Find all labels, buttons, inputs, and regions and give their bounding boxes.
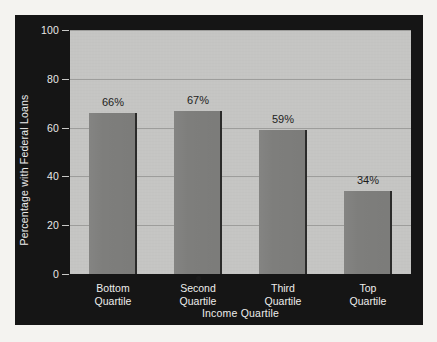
gridline [70, 79, 411, 80]
y-axis-tick-mark [62, 176, 69, 177]
y-axis-tick-label: 60 [47, 123, 59, 133]
y-axis-tick-label: 100 [41, 25, 59, 35]
plot-area: 66%67%59%34% [70, 30, 411, 274]
y-axis-tick-label: 0 [53, 269, 59, 279]
bar-data-label: 34% [328, 175, 408, 186]
x-axis-category-label: ThirdQuartile [239, 282, 327, 308]
bar-data-label: 67% [158, 95, 238, 106]
bar[interactable] [174, 111, 222, 274]
bar-data-label: 59% [243, 114, 323, 125]
chart-panel: Percentage with Federal Loans 0204060801… [15, 15, 423, 325]
y-axis-tick-mark [62, 225, 69, 226]
gridline [70, 30, 411, 31]
y-axis-tick-label: 80 [47, 74, 59, 84]
x-axis-category-label-line: Top [324, 282, 412, 295]
x-axis-category-label-line: Third [239, 282, 327, 295]
y-axis-title: Percentage with Federal Loans [18, 94, 30, 245]
bar[interactable] [89, 113, 137, 274]
chart-figure: Percentage with Federal Loans 0204060801… [0, 0, 437, 342]
x-axis-title: Income Quartile [70, 307, 411, 319]
bar-data-label: 66% [73, 97, 153, 108]
x-axis-category-label-line: Bottom [69, 282, 157, 295]
y-axis-tick-label: 40 [47, 171, 59, 181]
y-axis-tick-mark [62, 274, 69, 275]
x-axis-category-label: BottomQuartile [69, 282, 157, 308]
y-axis-tick-mark [62, 128, 69, 129]
y-axis-tick-mark [62, 30, 69, 31]
bar[interactable] [259, 130, 307, 274]
x-axis-category-label: SecondQuartile [154, 282, 242, 308]
x-axis-category-label-line: Second [154, 282, 242, 295]
y-axis-tick-label: 20 [47, 220, 59, 230]
bar[interactable] [344, 191, 392, 274]
y-axis-tick-mark [62, 79, 69, 80]
x-axis-category-label: TopQuartile [324, 282, 412, 308]
y-axis-title-container: Percentage with Federal Loans [15, 15, 36, 325]
